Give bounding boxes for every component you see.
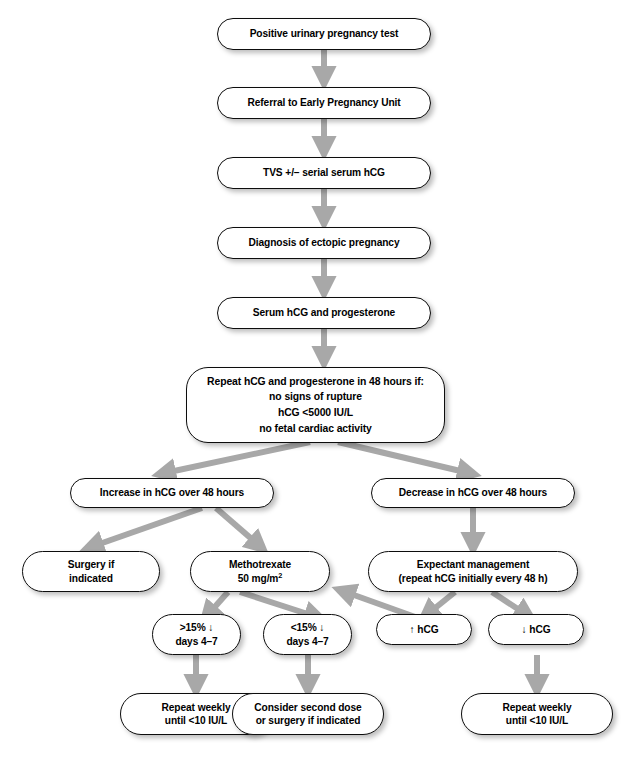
- node-positive-urinary-pregnancy-test[interactable]: Positive urinary pregnancy test: [217, 18, 431, 50]
- node-serum-hcg-progesterone[interactable]: Serum hCG and progesterone: [217, 297, 431, 329]
- node-hcg-increasing[interactable]: ↑ hCG: [376, 614, 472, 645]
- methotrexate-dose: 50 mg/m: [238, 573, 279, 584]
- node-surgery-if-indicated[interactable]: Surgery if indicated: [22, 551, 160, 592]
- node-hcg-decreasing[interactable]: ↓ hCG: [488, 614, 584, 645]
- arrow-repeat-to-decrease: [338, 442, 473, 474]
- node-diagnosis-ectopic-pregnancy[interactable]: Diagnosis of ectopic pregnancy: [217, 227, 431, 259]
- node-decrease-hcg-48-hours[interactable]: Decrease in hCG over 48 hours: [371, 478, 575, 508]
- node-label: Diagnosis of ectopic pregnancy: [240, 236, 409, 249]
- arrow-increase-to-mtx: [216, 508, 262, 548]
- node-label: Referral to Early Pregnancy Unit: [238, 96, 409, 109]
- node-tvs-serial-serum-hcg[interactable]: TVS +/– serial serum hCG: [217, 157, 431, 189]
- methotrexate-dose-exponent: 2: [278, 570, 282, 579]
- flowchart-canvas: Positive urinary pregnancy test Referral…: [0, 0, 629, 779]
- node-increase-hcg-48-hours[interactable]: Increase in hCG over 48 hours: [70, 478, 274, 508]
- node-label: Surgery if indicated: [59, 558, 124, 585]
- node-consider-second-dose[interactable]: Consider second dose or surgery if indic…: [232, 693, 384, 735]
- node-label: Positive urinary pregnancy test: [241, 27, 408, 40]
- node-drop-over-15-percent[interactable]: >15% ↓ days 4–7: [152, 614, 241, 655]
- arrow-repeat-to-increase: [160, 442, 310, 474]
- repeat-line-1: Repeat hCG and progesterone in 48 hours …: [207, 374, 424, 390]
- node-label: Serum hCG and progesterone: [244, 306, 404, 319]
- node-drop-under-15-percent[interactable]: <15% ↓ days 4–7: [263, 614, 352, 655]
- node-label: <15% ↓ days 4–7: [277, 621, 337, 648]
- repeat-line-2: no signs of rupture: [269, 389, 362, 405]
- node-repeat-weekly-right[interactable]: Repeat weekly until <10 IU/L: [461, 693, 613, 735]
- node-label: >15% ↓ days 4–7: [166, 621, 226, 648]
- node-label: Repeat weekly until <10 IU/L: [494, 701, 581, 728]
- node-methotrexate[interactable]: Methotrexate 50 mg/m2: [190, 551, 330, 592]
- expectant-line-2: (repeat hCG initially every 48 h): [398, 572, 547, 585]
- node-label: ↑ hCG: [401, 623, 448, 636]
- node-repeat-hcg-progesterone-48h[interactable]: Repeat hCG and progesterone in 48 hours …: [186, 367, 445, 443]
- expectant-line-1: Expectant management: [417, 558, 529, 571]
- methotrexate-line-2: 50 mg/m2: [238, 572, 283, 585]
- arrow-increase-to-surgery: [88, 508, 202, 548]
- node-label: ↓ hCG: [513, 623, 560, 636]
- repeat-line-4: no fetal cardiac activity: [259, 421, 371, 437]
- node-label: TVS +/– serial serum hCG: [254, 166, 394, 179]
- repeat-line-3: hCG <5000 IU/L: [278, 405, 353, 421]
- node-label: Repeat weekly until <10 IU/L: [153, 701, 240, 728]
- node-label: Consider second dose or surgery if indic…: [245, 701, 370, 728]
- node-expectant-management[interactable]: Expectant management (repeat hCG initial…: [368, 551, 578, 592]
- node-label: Decrease in hCG over 48 hours: [390, 486, 556, 499]
- node-referral-early-pregnancy-unit[interactable]: Referral to Early Pregnancy Unit: [217, 87, 431, 119]
- node-label: Increase in hCG over 48 hours: [91, 486, 253, 499]
